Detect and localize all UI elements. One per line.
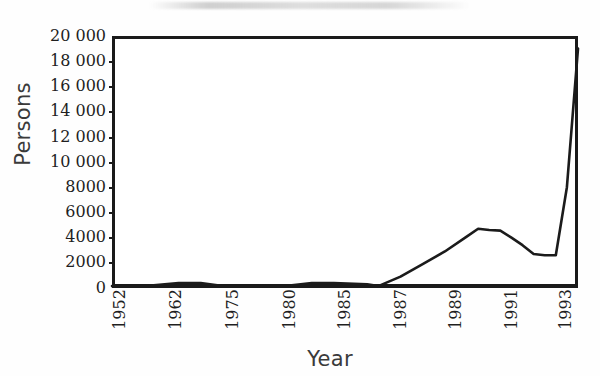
x-tick-label: 1991 — [502, 283, 521, 337]
y-tick-label: 16 000 — [0, 78, 106, 94]
x-tick-label: 1962 — [166, 283, 185, 337]
x-tick-label: 1993 — [556, 283, 575, 337]
y-tick-label: 20 000 — [0, 28, 106, 44]
x-tick-label: 1987 — [391, 283, 410, 337]
y-tick-label: 6000 — [0, 204, 106, 220]
x-tick-label: 1980 — [280, 283, 299, 337]
x-axis-title: Year — [270, 347, 390, 371]
x-tick-label: 1985 — [335, 283, 354, 337]
x-tick-label: 1989 — [446, 283, 465, 337]
y-tick-label: 2000 — [0, 254, 106, 270]
y-tick-label: 8000 — [0, 179, 106, 195]
y-tick-label: 10 000 — [0, 154, 106, 170]
x-tick-label: 1975 — [223, 283, 242, 337]
y-tick-label: 18 000 — [0, 53, 106, 69]
y-tick-label: 0 — [0, 280, 106, 296]
x-tick-label: 1952 — [110, 283, 129, 337]
y-tick-label: 4000 — [0, 229, 106, 245]
y-tick-label: 14 000 — [0, 103, 106, 119]
plot-area — [112, 36, 578, 288]
chart-figure: Persons Year 20 000 18 000 16 000 14 000… — [0, 0, 600, 376]
scan-artifact — [150, 2, 470, 9]
y-tick-label: 12 000 — [0, 129, 106, 145]
